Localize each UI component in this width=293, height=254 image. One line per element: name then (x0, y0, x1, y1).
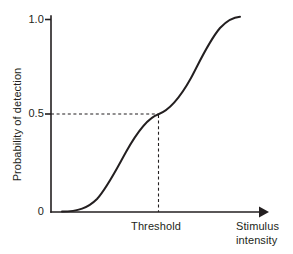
y-axis-tick-label-1: 1.0 (6, 13, 44, 26)
x-axis-title-line-1: Stimulus (236, 219, 293, 233)
x-axis-title: Stimulus intensity (236, 219, 293, 247)
y-axis-tick-label-0: 0 (6, 205, 44, 218)
threshold-label: Threshold (110, 220, 202, 233)
x-axis-arrow-icon (259, 207, 269, 218)
y-axis-title: Probability of detection (11, 55, 24, 195)
psychometric-curve (62, 17, 240, 212)
x-axis-title-line-2: intensity (236, 233, 293, 247)
psychometric-function-figure: 1.0 0.5 0 Probability of detection Thres… (0, 0, 293, 254)
